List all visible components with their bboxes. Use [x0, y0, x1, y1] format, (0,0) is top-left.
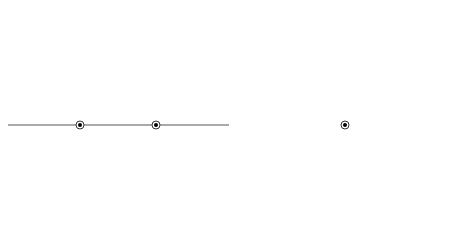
point-b3: [341, 121, 349, 129]
point-b2: [152, 121, 160, 129]
point-b1: [76, 121, 84, 129]
figure-canvas: [0, 0, 464, 247]
